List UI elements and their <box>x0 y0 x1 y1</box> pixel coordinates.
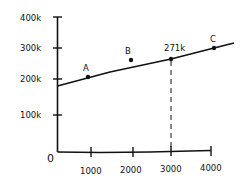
x-tick-label-3000: 3000 <box>160 164 182 174</box>
point-a <box>86 75 90 79</box>
point-label-c: C <box>210 34 216 44</box>
point-c <box>212 46 216 50</box>
point-label-b: B <box>125 46 131 56</box>
y-tick-label-100k: 100k <box>20 110 41 120</box>
x-axis <box>58 146 212 157</box>
x-tick-label-1000: 1000 <box>80 166 102 176</box>
point-annotation-271k: 271k <box>164 43 185 53</box>
x-tick-label-2000: 2000 <box>120 165 142 175</box>
point-label-a: A <box>83 63 89 73</box>
y-tick-label-300k: 300k <box>20 43 41 53</box>
chart: 400k 300k 200k 100k 0 1000 2000 3000 400… <box>0 0 246 185</box>
y-tick-label-400k: 400k <box>20 13 41 23</box>
origin-label: 0 <box>47 152 54 165</box>
x-tick-label-4000: 4000 <box>200 163 222 173</box>
point-b <box>129 58 133 62</box>
point-271k <box>169 57 173 61</box>
y-tick-label-200k: 200k <box>20 74 41 84</box>
